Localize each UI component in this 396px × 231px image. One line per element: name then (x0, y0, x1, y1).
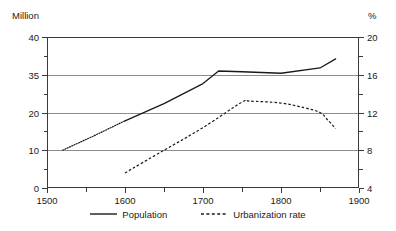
right-tick-minor (359, 94, 363, 95)
legend-item-urbanization-rate: Urbanization rate (201, 209, 305, 220)
legend-swatch-dashed (201, 210, 228, 218)
right-tick-major (359, 75, 364, 76)
left-tick-label: 20 (28, 107, 39, 118)
bottom-tick-minor (86, 188, 87, 192)
right-tick-minor (359, 169, 363, 170)
legend-label-population: Population (122, 209, 167, 220)
right-tick-major (359, 113, 364, 114)
right-tick-label: 16 (367, 69, 378, 80)
plot-area: 403520100 20161284 15001600170018001900 (47, 37, 359, 188)
bottom-tick-major (47, 188, 48, 193)
bottom-tick-minor (164, 188, 165, 192)
right-tick-label: 4 (367, 183, 372, 194)
plot-frame (47, 37, 359, 188)
right-tick-minor (359, 131, 363, 132)
bottom-tick-major (281, 188, 282, 193)
legend-label-urbanization-rate: Urbanization rate (233, 209, 305, 220)
left-tick-label: 40 (28, 32, 39, 43)
left-tick-label: 35 (28, 69, 39, 80)
bottom-tick-minor (320, 188, 321, 192)
chart-legend: Population Urbanization rate (0, 205, 396, 223)
right-tick-minor (359, 56, 363, 57)
right-tick-label: 8 (367, 145, 372, 156)
bottom-tick-major (125, 188, 126, 193)
right-tick-major (359, 37, 364, 38)
right-tick-label: 20 (367, 32, 378, 43)
left-axis-unit-label: Million (12, 10, 39, 21)
legend-item-population: Population (90, 209, 167, 220)
bottom-tick-major (359, 188, 360, 193)
bottom-tick-major (203, 188, 204, 193)
chart-figure: Million % 403520100 20161284 15001600170… (0, 0, 396, 231)
legend-swatch-solid (90, 210, 117, 218)
right-tick-label: 12 (367, 107, 378, 118)
right-axis-unit-label: % (368, 10, 376, 21)
left-tick-label: 10 (28, 145, 39, 156)
right-tick-major (359, 150, 364, 151)
left-tick-label: 0 (34, 183, 39, 194)
bottom-tick-minor (242, 188, 243, 192)
